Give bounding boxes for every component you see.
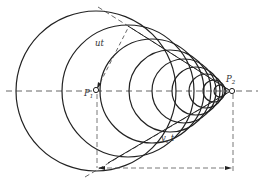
mach-cone-upper-solid (128, 26, 229, 90)
label-p1: P1 (83, 88, 93, 99)
source-point-p2 (229, 88, 234, 93)
label-p2: P2 (225, 74, 236, 85)
source-point-p1 (93, 87, 98, 92)
dimension-arrow-right (225, 166, 232, 170)
mach-cone-diagram: ut P1 P2 vst (0, 0, 262, 192)
label-vst: vst (161, 133, 175, 144)
mach-cone-lower-solid (108, 92, 229, 163)
label-ut: ut (95, 38, 104, 48)
dimension-arrow-left (98, 166, 105, 170)
